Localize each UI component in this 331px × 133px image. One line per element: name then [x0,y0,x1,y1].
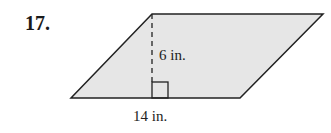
height-label: 6 in. [159,47,186,63]
parallelogram-shape [71,14,323,98]
base-label: 14 in. [133,108,167,124]
parallelogram-diagram: 6 in. 14 in. [0,0,331,133]
